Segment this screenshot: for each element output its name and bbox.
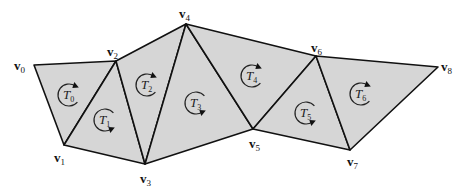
vertex-label-v2: v2 xyxy=(107,44,118,61)
vertex-label-v0: v0 xyxy=(14,58,26,75)
vertex-label-v7: v7 xyxy=(347,154,359,171)
vertex-label-v4: v4 xyxy=(179,6,191,23)
triangle-strip-diagram: T0T1T2T3T4T5T6 v0v1v2v3v4v5v6v7v8 xyxy=(0,0,468,189)
diagram-canvas: T0T1T2T3T4T5T6 v0v1v2v3v4v5v6v7v8 xyxy=(0,0,468,189)
vertex-label-v5: v5 xyxy=(249,136,261,153)
vertex-label-v1: v1 xyxy=(54,150,65,167)
vertex-label-v8: v8 xyxy=(441,59,453,76)
vertex-label-v3: v3 xyxy=(140,171,152,188)
triangles-layer xyxy=(34,24,438,164)
vertex-label-v6: v6 xyxy=(311,40,323,57)
